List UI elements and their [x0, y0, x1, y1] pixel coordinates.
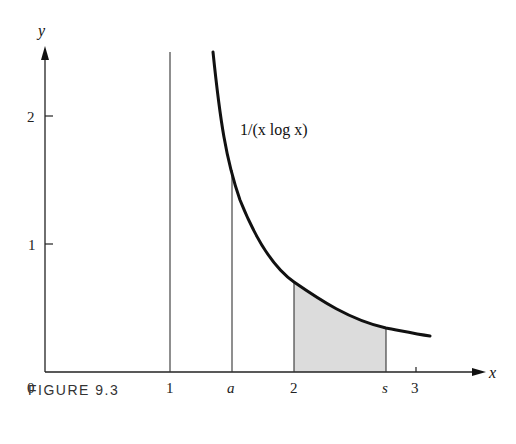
x-tick-label-1: 1 — [166, 380, 174, 396]
x-axis-arrow-icon — [472, 368, 486, 376]
figure-caption: FIGURE 9.3 — [28, 382, 119, 398]
function-label: 1/(x log x) — [240, 121, 308, 139]
x-tick-label-s: s — [382, 380, 388, 396]
shaded-area — [294, 282, 386, 372]
x-axis-label: x — [488, 364, 496, 381]
y-axis-label: y — [36, 22, 46, 40]
y-tick-label-1: 1 — [28, 237, 36, 253]
y-axis-arrow-icon — [41, 46, 49, 60]
plot-area: y x 2 1 0 1 a 2 s 3 1/(x log x) — [0, 0, 516, 444]
y-tick-label-2: 2 — [27, 109, 35, 125]
x-tick-label-3: 3 — [411, 380, 419, 396]
x-tick-label-2: 2 — [290, 380, 298, 396]
function-curve — [213, 52, 430, 336]
x-tick-label-a: a — [227, 380, 235, 396]
